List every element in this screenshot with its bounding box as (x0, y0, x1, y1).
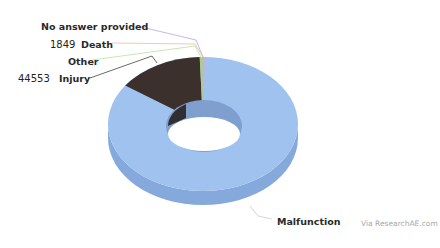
donut-chart (0, 0, 440, 248)
value-injury: 44553 (18, 73, 50, 84)
label-no-answer: No answer provided (41, 21, 148, 32)
value-death: 1849 (50, 39, 75, 50)
label-death: Death (81, 39, 113, 50)
watermark: Via ResearchAE.com (361, 219, 438, 228)
label-injury: Injury (59, 73, 90, 84)
donut-hole (166, 100, 242, 152)
label-malfunction: Malfunction (277, 216, 341, 227)
label-other: Other (68, 56, 99, 67)
